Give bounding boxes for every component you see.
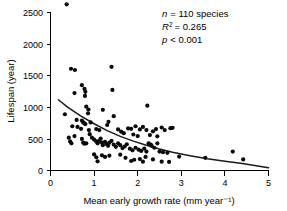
- data-point: [72, 134, 76, 138]
- data-point: [131, 132, 135, 136]
- annotation-sample-size: n= 110 species: [162, 8, 229, 19]
- data-point: [143, 155, 147, 159]
- data-point: [80, 137, 84, 141]
- x-tick-label-4: 4: [222, 178, 227, 188]
- data-point: [88, 132, 92, 136]
- stats-annotation-block: n= 110 species R2= 0.265 p< 0.001: [161, 8, 229, 45]
- data-point: [109, 65, 113, 69]
- x-tick-label-0: 0: [48, 178, 53, 188]
- data-point: [151, 157, 155, 161]
- x-tick-label-2: 2: [135, 178, 140, 188]
- x-axis-tick-labels: 0 1 2 3 4 5: [48, 178, 271, 188]
- annotation-r-superscript: 2: [169, 21, 173, 28]
- data-point: [141, 160, 145, 164]
- data-point: [94, 155, 98, 159]
- data-point: [125, 142, 129, 146]
- x-tick-label-3: 3: [179, 178, 184, 188]
- data-point: [122, 131, 126, 135]
- data-point: [133, 124, 137, 128]
- data-point: [65, 2, 69, 6]
- data-point: [112, 114, 116, 118]
- data-point: [231, 149, 235, 153]
- data-point: [155, 141, 159, 145]
- data-point: [161, 150, 165, 154]
- data-point: [83, 94, 87, 98]
- annotation-p-value-text: < 0.001: [170, 34, 202, 45]
- data-point: [69, 67, 73, 71]
- data-point: [107, 154, 111, 158]
- data-point: [132, 158, 136, 162]
- data-point: [63, 112, 67, 116]
- data-point: [129, 127, 133, 131]
- data-point: [109, 139, 113, 143]
- data-point: [170, 126, 174, 130]
- x-tick-label-5: 5: [266, 178, 271, 188]
- data-point: [114, 145, 118, 149]
- y-axis-tick-labels: 2500 2000 1500 1000 500 0: [23, 8, 43, 176]
- data-point: [136, 134, 140, 138]
- data-point: [70, 124, 74, 128]
- data-point: [103, 155, 107, 159]
- data-point: [84, 141, 88, 145]
- data-point: [203, 156, 207, 160]
- data-point: [152, 146, 156, 150]
- data-point: [177, 155, 181, 159]
- annotation-n-symbol: n: [162, 8, 167, 19]
- data-point: [79, 127, 83, 131]
- y-tick-label-2500: 2500: [23, 8, 43, 18]
- annotation-r-squared: R2= 0.265: [162, 21, 206, 33]
- data-point: [110, 88, 114, 92]
- data-point: [144, 149, 148, 153]
- data-point: [83, 122, 87, 126]
- scatter-points-layer: [63, 2, 246, 164]
- y-tick-label-1500: 1500: [23, 71, 43, 81]
- data-point: [105, 123, 109, 127]
- data-point: [148, 133, 152, 137]
- data-point: [141, 125, 145, 129]
- data-point: [95, 159, 99, 163]
- x-tick-label-1: 1: [92, 178, 97, 188]
- scatter-plot-figure: 2500 2000 1500 1000 500 0 0 1 2 3 4 5 Li…: [0, 0, 287, 211]
- data-point: [163, 128, 167, 132]
- data-point: [86, 111, 90, 115]
- data-point: [145, 104, 149, 108]
- x-axis-title: Mean early growth rate (mm year⁻¹): [83, 195, 234, 206]
- chart-canvas: 2500 2000 1500 1000 500 0 0 1 2 3 4 5 Li…: [0, 0, 287, 211]
- data-point: [157, 149, 161, 153]
- data-point: [89, 120, 93, 124]
- y-axis-title: Lifespan (year): [5, 59, 16, 122]
- data-point: [67, 136, 71, 140]
- y-tick-label-500: 500: [28, 135, 43, 145]
- data-point: [160, 160, 164, 164]
- data-point: [87, 128, 91, 132]
- data-point: [83, 90, 87, 94]
- annotation-n-value: = 110 species: [170, 8, 228, 19]
- data-point: [99, 136, 103, 140]
- data-point: [165, 151, 169, 155]
- y-tick-label-0: 0: [38, 166, 43, 176]
- data-point: [167, 160, 171, 164]
- data-point: [144, 128, 148, 132]
- annotation-p-value: p< 0.001: [161, 34, 202, 45]
- data-point: [75, 118, 79, 122]
- data-point: [69, 141, 73, 145]
- data-point: [118, 153, 122, 157]
- data-point: [86, 107, 90, 111]
- y-axis-ticks: [47, 13, 51, 171]
- data-point: [97, 128, 101, 132]
- data-point: [101, 108, 105, 112]
- data-point: [72, 91, 76, 95]
- data-point: [155, 134, 159, 138]
- y-tick-label-1000: 1000: [23, 103, 43, 113]
- data-point: [154, 127, 158, 131]
- data-point: [73, 68, 77, 72]
- data-point: [123, 156, 127, 160]
- data-point: [241, 157, 245, 161]
- annotation-r2-value: = 0.265: [175, 21, 207, 32]
- x-axis-ticks: [51, 171, 269, 176]
- annotation-p-symbol: p: [161, 34, 167, 45]
- data-point: [80, 83, 84, 87]
- y-tick-label-2000: 2000: [23, 40, 43, 50]
